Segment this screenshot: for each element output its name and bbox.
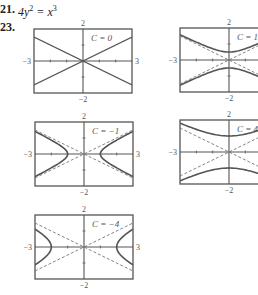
- xmin-label: −3: [23, 150, 32, 159]
- ymax-label: 2: [227, 110, 231, 119]
- ymax-label: 2: [82, 112, 86, 121]
- xmin-label: −3: [168, 148, 177, 157]
- ymin-label: −2: [80, 188, 89, 197]
- ymin-label: −2: [80, 281, 89, 290]
- xmax-label: 3: [135, 57, 139, 66]
- xmin-label: −3: [23, 243, 32, 252]
- c-value-label: C = 0: [91, 33, 113, 43]
- graphs-canvas: 2−2−33C = 02−2−33C = 12−2−33C = −12−2−33…: [0, 0, 258, 295]
- xmax-label: 3: [136, 150, 140, 159]
- ymin-label: −2: [225, 94, 234, 103]
- ymax-label: 2: [227, 18, 231, 27]
- graph-cm4: 2−2−33C = −4: [11, 205, 157, 290]
- c-value-label: C = −1: [92, 126, 119, 136]
- xmax-label: 3: [136, 243, 140, 252]
- c-value-label: C = 4: [237, 124, 258, 134]
- graph-c1: 2−2−33C = 1: [168, 18, 258, 103]
- ymax-label: 2: [82, 205, 86, 214]
- c-value-label: C = −4: [92, 219, 120, 229]
- lower-branch: [180, 68, 258, 85]
- ymax-label: 2: [81, 19, 85, 28]
- graph-cm1: 2−2−33C = −1: [17, 112, 152, 197]
- ymin-label: −2: [225, 186, 234, 195]
- c-value-label: C = 1: [237, 32, 258, 42]
- graph-c0: 2−2−33C = 0: [22, 19, 139, 104]
- xmin-label: −3: [168, 56, 177, 65]
- lower-branch: [180, 168, 258, 181]
- xmin-label: −3: [22, 57, 31, 66]
- graph-c4: 2−2−33C = 4: [168, 110, 258, 195]
- ymin-label: −2: [79, 95, 88, 104]
